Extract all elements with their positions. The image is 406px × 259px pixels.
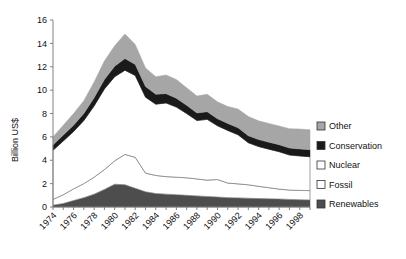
x-tick-label: 1992 (222, 210, 243, 231)
x-tick-label: 1980 (99, 210, 120, 231)
legend-label: Fossil (329, 180, 353, 190)
y-tick-label: 12 (37, 62, 47, 72)
y-tick-label: 14 (37, 39, 47, 49)
legend-item-renewables[interactable]: Renewables (317, 199, 379, 209)
legend-item-fossil[interactable]: Fossil (317, 180, 353, 190)
y-axis-label: Billion US$ (10, 118, 20, 162)
x-tick-label: 1978 (78, 210, 99, 231)
legend-label: Conservation (329, 141, 382, 151)
x-tick-group: 1974197619781980198219841986198819901992… (37, 207, 310, 232)
y-tick-label: 8 (42, 109, 47, 119)
x-tick-label: 1988 (181, 210, 202, 231)
legend-item-nuclear[interactable]: Nuclear (317, 160, 360, 170)
y-tick-label: 0 (42, 202, 47, 212)
legend-label: Renewables (329, 199, 379, 209)
x-tick-label: 1986 (161, 210, 182, 231)
area-series-group (53, 34, 310, 207)
x-tick-label: 1984 (140, 210, 161, 231)
x-tick-label: 1994 (243, 210, 264, 231)
legend-swatch-renewables (317, 200, 325, 208)
y-tick-label: 4 (42, 155, 47, 165)
x-tick-label: 1976 (58, 210, 79, 231)
y-axis-label-group: Billion US$ (10, 118, 20, 162)
x-tick-label: 1974 (37, 210, 58, 231)
legend-item-other[interactable]: Other (317, 121, 352, 131)
legend-item-conservation[interactable]: Conservation (317, 141, 382, 151)
legend-label: Other (329, 121, 352, 131)
chart-canvas: 0246810121416 19741976197819801982198419… (0, 0, 406, 259)
y-tick-label: 6 (42, 132, 47, 142)
y-tick-label: 2 (42, 179, 47, 189)
x-tick-label: 1982 (119, 210, 140, 231)
legend-label: Nuclear (329, 160, 360, 170)
x-tick-label: 1990 (202, 210, 223, 231)
y-tick-label: 10 (37, 85, 47, 95)
legend-swatch-fossil (317, 181, 325, 189)
legend-swatch-other (317, 122, 325, 130)
legend-swatch-nuclear (317, 161, 325, 169)
x-tick-label: 1998 (284, 210, 305, 231)
y-tick-group: 0246810121416 (37, 15, 53, 212)
chart-legend: OtherConservationNuclearFossilRenewables (317, 121, 382, 209)
y-tick-label: 16 (37, 15, 47, 25)
stacked-area-chart: 0246810121416 19741976197819801982198419… (0, 0, 406, 259)
x-tick-label: 1996 (263, 210, 284, 231)
legend-swatch-conservation (317, 142, 325, 150)
